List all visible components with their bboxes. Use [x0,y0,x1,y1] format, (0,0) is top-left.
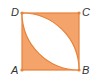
vertex-d-dot [20,11,23,14]
label-d: D [11,6,19,18]
label-a: A [10,64,18,76]
vertex-c-dot [77,11,80,14]
vertex-b-dot [77,68,80,71]
square-lens-diagram: D C A B [0,0,98,81]
label-c: C [82,6,90,18]
vertex-a-dot [20,68,23,71]
label-b: B [82,64,89,76]
